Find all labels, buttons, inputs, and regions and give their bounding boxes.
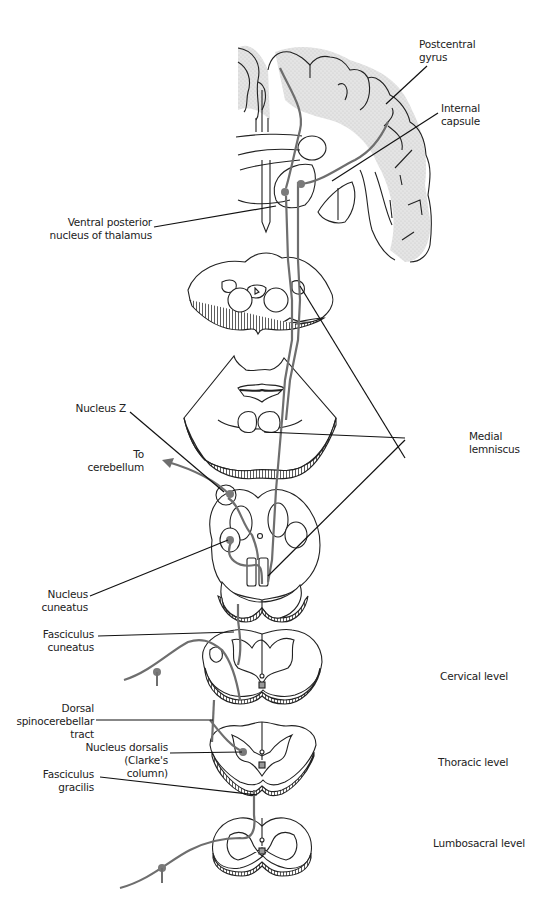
thalamic-neuron-2 <box>281 188 289 196</box>
spinal-cord-lumbosacral <box>213 818 312 876</box>
spinal-cord-thoracic <box>210 722 316 796</box>
label-nucleus-cuneatus: Nucleus cuneatus <box>30 588 88 614</box>
label-postcentral-gyrus: Postcentral gyrus <box>419 38 475 64</box>
label-dorsal-spinocerebellar-tract: Dorsal spinocerebellar tract <box>10 702 94 741</box>
thalamic-neuron-1 <box>297 180 305 188</box>
label-vpl-thalamus: Ventral posterior nucleus of thalamus <box>20 216 152 242</box>
label-thoracic-level: Thoracic level <box>438 756 508 769</box>
label-cervical-level: Cervical level <box>440 670 508 683</box>
label-internal-capsule: Internal capsule <box>441 102 480 128</box>
nucleus-z-neuron <box>226 490 234 498</box>
pons-section <box>184 356 336 479</box>
label-medial-lemniscus: Medial lemniscus <box>469 430 520 456</box>
label-to-cerebellum: To cerebellum <box>80 448 144 474</box>
label-fasciculus-gracilis: Fasciculus gracilis <box>30 768 94 794</box>
cerebral-hemisphere <box>236 46 431 262</box>
spinal-cord-cervical <box>203 629 322 704</box>
midbrain-section <box>188 253 333 334</box>
label-fasciculus-cuneatus: Fasciculus cuneatus <box>30 628 94 654</box>
label-nucleus-z: Nucleus Z <box>60 402 126 415</box>
medulla-section <box>210 485 320 622</box>
label-lumbosacral-level: Lumbosacral level <box>433 837 525 850</box>
